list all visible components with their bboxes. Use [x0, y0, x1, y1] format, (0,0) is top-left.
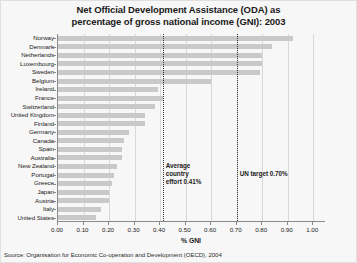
- bar: [58, 61, 262, 66]
- x-axis-tick: [210, 222, 211, 225]
- y-axis-tick: [53, 141, 56, 142]
- category-label: Spain: [38, 146, 54, 152]
- plot-area: [57, 34, 325, 222]
- y-axis-tick: [53, 47, 56, 48]
- bar: [58, 130, 129, 135]
- bar: [58, 79, 211, 84]
- bar: [58, 138, 124, 143]
- y-axis-tick: [53, 209, 56, 210]
- y-axis-tick: [53, 115, 56, 116]
- bar: [58, 96, 163, 101]
- category-label: Germany: [29, 129, 54, 135]
- gridline: [288, 34, 289, 221]
- bar: [58, 87, 158, 92]
- x-axis-tick: [312, 222, 313, 225]
- chart-title: Net Official Development Assistance (ODA…: [0, 4, 357, 28]
- y-axis-tick: [53, 72, 56, 73]
- bar: [58, 121, 145, 126]
- y-axis-tick: [53, 201, 56, 202]
- category-label: Luxembourg: [20, 61, 54, 67]
- x-axis-tick: [261, 222, 262, 225]
- bar: [58, 181, 112, 186]
- category-label: New Zealand: [18, 163, 54, 169]
- x-axis-tick: [108, 222, 109, 225]
- category-label: Belgium: [32, 78, 54, 84]
- category-label: Norway: [33, 35, 54, 41]
- category-axis-labels: NorwayDenmarkNetherlandsLuxembourgSweden…: [0, 34, 56, 222]
- x-axis-tick-label: 0.30: [128, 226, 140, 233]
- category-label: Ireland: [35, 86, 54, 92]
- category-label: Denmark: [29, 44, 54, 50]
- category-label: Netherlands: [21, 52, 54, 58]
- bar: [58, 70, 260, 75]
- x-axis-tick-label: 1.00: [306, 226, 318, 233]
- bar: [58, 173, 114, 178]
- x-axis-tick-label: 0.50: [179, 226, 191, 233]
- x-axis-tick-label: 0.70: [230, 226, 242, 233]
- reference-line-average-country-effort: [163, 34, 164, 221]
- bar: [58, 207, 101, 212]
- category-label: Switzerland: [23, 104, 54, 110]
- reference-line-un-target: [237, 34, 238, 221]
- x-axis-tick-label: 0.60: [204, 226, 216, 233]
- x-axis-tick: [57, 222, 58, 225]
- y-axis-tick: [53, 218, 56, 219]
- bar: [58, 44, 272, 49]
- bar: [58, 190, 109, 195]
- gridline: [262, 34, 263, 221]
- y-axis-tick: [53, 107, 56, 108]
- annotation-line-2: country: [166, 170, 202, 178]
- annotation-line-1: UN target 0.70%: [240, 170, 288, 178]
- category-label: Austria: [35, 198, 54, 204]
- bar: [58, 198, 109, 203]
- y-axis-tick: [53, 184, 56, 185]
- y-axis-tick: [53, 38, 56, 39]
- x-axis-tick: [83, 222, 84, 225]
- chart-title-line-2: percentage of gross national income (GNI…: [0, 16, 357, 28]
- y-axis-tick: [53, 132, 56, 133]
- x-axis-tick-label: 0.00: [51, 226, 63, 233]
- bar: [58, 113, 145, 118]
- x-axis-tick: [236, 222, 237, 225]
- x-axis-tick-label: 0.10: [76, 226, 88, 233]
- y-axis-tick: [53, 175, 56, 176]
- x-axis-tick: [134, 222, 135, 225]
- x-axis-tick-label: 0.90: [281, 226, 293, 233]
- category-label: Sweden: [32, 69, 54, 75]
- annotation-un-target: UN target 0.70%: [240, 170, 288, 178]
- category-label: Canada: [33, 138, 54, 144]
- annotation-line-1: Average: [166, 162, 202, 170]
- y-axis-tick: [53, 158, 56, 159]
- category-label: Australia: [30, 155, 54, 161]
- annotation-line-3: effort 0.41%: [166, 178, 202, 186]
- bar: [58, 155, 122, 160]
- category-label: Portugal: [31, 172, 54, 178]
- category-label: United States: [18, 215, 55, 221]
- y-axis-tick: [53, 192, 56, 193]
- category-label: France: [35, 95, 54, 101]
- y-axis-tick: [53, 90, 56, 91]
- bar: [58, 215, 96, 220]
- category-label: Greece: [34, 180, 54, 186]
- y-axis-tick: [53, 64, 56, 65]
- x-axis-tick: [185, 222, 186, 225]
- y-axis-tick: [53, 149, 56, 150]
- category-label: Finland: [34, 121, 54, 127]
- chart-title-line-1: Net Official Development Assistance (ODA…: [0, 4, 357, 16]
- category-label: Japan: [37, 189, 54, 195]
- y-axis-tick: [53, 55, 56, 56]
- bar: [58, 147, 122, 152]
- bar: [58, 53, 262, 58]
- y-axis-tick: [53, 98, 56, 99]
- bar: [58, 36, 293, 41]
- x-axis-tick: [287, 222, 288, 225]
- x-axis-tick-label: 0.20: [102, 226, 114, 233]
- x-axis-tick-label: 0.40: [153, 226, 165, 233]
- plot-wrapper: NorwayDenmarkNetherlandsLuxembourgSweden…: [0, 34, 357, 230]
- category-label: United Kingdom: [11, 112, 54, 118]
- gridline: [313, 34, 314, 221]
- x-axis-title: % GNI: [57, 237, 325, 244]
- x-axis-tick-label: 0.80: [255, 226, 267, 233]
- y-axis-tick: [53, 81, 56, 82]
- source-note: Source: Organisation for Economic Co-ope…: [4, 252, 222, 258]
